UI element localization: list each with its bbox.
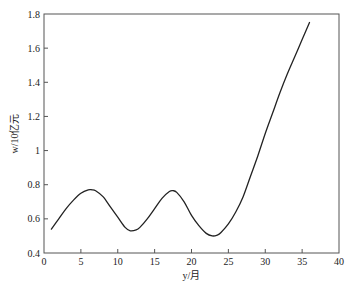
y-tick-label: 0.8: [28, 179, 41, 190]
y-axis-ticks: 0.40.60.811.21.41.61.8: [28, 9, 49, 259]
plot-frame: [44, 14, 339, 253]
line-chart: 0510152025303540 0.40.60.811.21.41.61.8 …: [0, 0, 356, 289]
x-axis-label: y/月: [183, 270, 201, 281]
x-tick-label: 35: [297, 256, 307, 267]
y-axis-label: w/10亿元: [8, 114, 20, 154]
x-tick-label: 20: [187, 256, 197, 267]
x-axis-ticks: 0510152025303540: [42, 249, 345, 267]
x-tick-label: 5: [78, 256, 83, 267]
y-tick-label: 1.6: [28, 43, 41, 54]
y-tick-label: 0.6: [28, 213, 41, 224]
y-tick-label: 1.8: [28, 9, 41, 20]
x-tick-label: 40: [334, 256, 344, 267]
x-tick-label: 15: [150, 256, 160, 267]
y-tick-label: 0.4: [28, 248, 41, 259]
data-line: [51, 23, 309, 236]
y-tick-label: 1.2: [28, 111, 41, 122]
y-tick-label: 1.4: [28, 77, 41, 88]
x-tick-label: 25: [223, 256, 233, 267]
y-tick-label: 1: [35, 145, 40, 156]
x-tick-label: 0: [42, 256, 47, 267]
x-tick-label: 10: [113, 256, 123, 267]
x-tick-label: 30: [260, 256, 270, 267]
